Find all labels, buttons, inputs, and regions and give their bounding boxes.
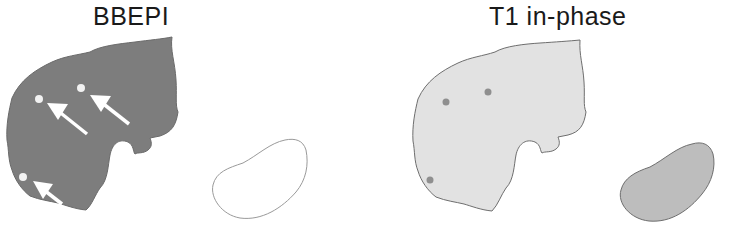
lesion-3 xyxy=(427,177,434,184)
kidney-outline xyxy=(213,139,308,218)
bbepi-diagram xyxy=(0,0,365,228)
t1-in-phase-diagram xyxy=(365,0,731,228)
panel-bbepi: BBEPI xyxy=(0,0,365,228)
liver-shape xyxy=(7,37,178,210)
lesion-3 xyxy=(19,173,27,181)
liver-shape xyxy=(413,40,586,211)
panel-t1-in-phase: T1 in-phase xyxy=(365,0,731,228)
kidney-shape xyxy=(620,143,714,221)
lesion-2 xyxy=(77,84,85,92)
lesion-1 xyxy=(443,99,450,106)
lesion-1 xyxy=(35,95,43,103)
lesion-2 xyxy=(485,89,492,96)
